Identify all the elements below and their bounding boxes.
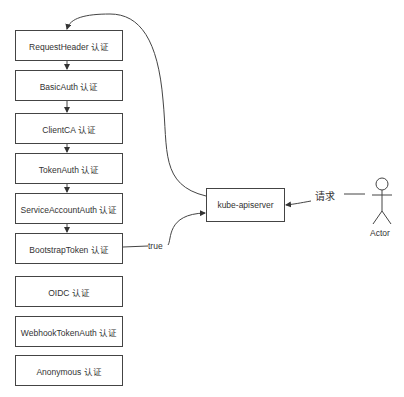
auth-box-bootstraptoken: BootstrapToken 认证: [15, 233, 123, 264]
auth-box-label: ClientCA 认证: [42, 123, 95, 135]
kube-apiserver-box: kube-apiserver: [206, 188, 285, 222]
kube-apiserver-label: kube-apiserver: [217, 200, 273, 210]
auth-box-serviceaccountauth: ServiceAccountAuth 认证: [15, 193, 123, 224]
true-edge-label: true: [148, 241, 163, 251]
auth-box-clientca: ClientCA 认证: [15, 113, 123, 144]
auth-box-label: OIDC 认证: [48, 286, 90, 298]
auth-box-requestheader: RequestHeader 认证: [15, 30, 123, 61]
auth-box-label: WebhookTokenAuth 认证: [21, 326, 117, 338]
auth-box-label: Anonymous 认证: [36, 365, 101, 377]
auth-box-label: ServiceAccountAuth 认证: [21, 203, 118, 215]
auth-box-basicauth: BasicAuth 认证: [15, 70, 123, 101]
auth-box-label: BasicAuth 认证: [40, 80, 99, 92]
actor-label: Actor: [370, 228, 390, 238]
actor-icon: [372, 178, 392, 224]
auth-box-tokenauth: TokenAuth 认证: [15, 153, 123, 184]
auth-box-oidc: OIDC 认证: [15, 276, 123, 307]
auth-box-label: RequestHeader 认证: [29, 40, 109, 52]
request-edge-label: 请求: [315, 192, 335, 202]
auth-box-webhooktokenauth: WebhookTokenAuth 认证: [15, 316, 123, 347]
auth-box-label: BootstrapToken 认证: [29, 243, 108, 255]
auth-box-label: TokenAuth 认证: [39, 163, 100, 175]
auth-box-anonymous: Anonymous 认证: [15, 355, 123, 386]
